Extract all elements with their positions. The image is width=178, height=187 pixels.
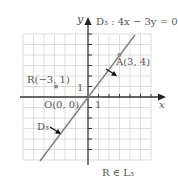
arrow-icon [55, 129, 61, 134]
y-axis-arrow-icon [85, 17, 92, 25]
caption: R ∈ L₃ [102, 168, 134, 178]
x-axis [20, 94, 166, 101]
origin-label: O(0, 0) [44, 100, 79, 110]
arrow-icon [111, 71, 117, 76]
unit-y-label: 1 [77, 83, 83, 93]
point-r [54, 85, 58, 89]
point-r-label: R(−3, 1) [27, 75, 70, 85]
line-equation-label: D₃ : 4x − 3y = 0 [96, 17, 178, 27]
line-d3-label: D₃ [37, 122, 49, 132]
coordinate-plane [0, 0, 178, 187]
y-axis-label: y [77, 14, 83, 25]
unit-x-label: 1 [95, 100, 101, 110]
half-plane-arrow-lower [50, 127, 61, 134]
half-plane-arrow-upper [106, 69, 117, 76]
x-axis-label: x [159, 100, 165, 110]
point-a-label: A(3, 4) [116, 57, 150, 67]
y-axis [85, 17, 92, 165]
